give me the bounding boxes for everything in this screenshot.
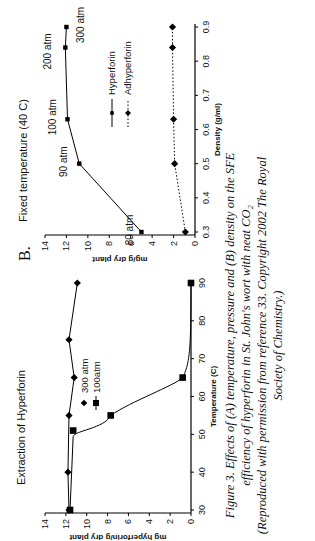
diamond-marker <box>74 279 81 286</box>
panel-b-label: B. <box>16 246 33 261</box>
x-tick-label: 0.3 <box>201 226 211 239</box>
legend: 300 atm100atm <box>79 359 102 410</box>
series-line <box>173 27 186 232</box>
y-axis-label: mg hyperforin/g dry plant <box>69 533 166 541</box>
square-marker <box>70 427 77 434</box>
legend-square-icon <box>93 400 99 406</box>
x-tick-label: 90 <box>197 278 207 288</box>
legend: HyperforinAdhyperforin <box>106 41 133 127</box>
x-axis-label: Temperature (C) <box>209 366 218 428</box>
series-300-atm <box>64 279 81 513</box>
y-tick-label: 14 <box>40 519 50 529</box>
x-tick-label: 0.8 <box>201 55 211 68</box>
y-tick-label: 2 <box>169 241 179 246</box>
x-axis-label: Density (g/ml) <box>213 103 222 156</box>
series-100atm <box>67 280 195 514</box>
diamond-marker <box>65 336 72 343</box>
square-marker <box>63 45 67 49</box>
caption-line-1: Figure 3. Effects of (A) temperature, pr… <box>222 0 238 541</box>
x-tick-label: 0.7 <box>201 89 211 102</box>
caption-line-4: Society of Chemistry.) <box>270 0 286 541</box>
x-tick-label: 80 <box>197 316 207 326</box>
square-marker <box>107 412 114 419</box>
legend-diamond-icon <box>81 400 88 407</box>
x-tick-label: 60 <box>197 391 207 401</box>
chart-title: Fixed temperature (40 C) <box>17 99 29 222</box>
legend-label: 300 atm <box>79 359 90 393</box>
legend-square-icon <box>110 111 114 115</box>
legend-diamond-icon <box>125 110 131 116</box>
series-line <box>70 283 191 510</box>
square-marker <box>179 374 186 381</box>
figure-caption: Figure 3. Effects of (A) temperature, pr… <box>222 0 286 541</box>
y-tick-label: 6 <box>123 519 133 524</box>
series-line <box>68 283 77 510</box>
y-tick-label: 0 <box>190 241 200 246</box>
y-tick-label: 4 <box>144 519 154 524</box>
diamond-marker <box>64 469 71 476</box>
x-tick-label: 0.5 <box>201 157 211 170</box>
x-tick-label: 0.9 <box>201 21 211 34</box>
square-marker <box>77 161 81 165</box>
y-tick-label: 8 <box>104 241 114 246</box>
x-tick-label: 50 <box>197 429 207 439</box>
chart-title: Extraction of Hyperforin <box>15 370 27 485</box>
point-label: 100 atm <box>47 99 58 135</box>
square-marker <box>65 117 69 121</box>
y-tick-label: 10 <box>83 241 93 251</box>
y-tick-label: 12 <box>61 241 71 251</box>
x-tick-label: 0.4 <box>201 192 211 205</box>
x-tick-label: 30 <box>197 505 207 515</box>
y-tick-label: 8 <box>103 519 113 524</box>
legend-label: Hyperforin <box>106 51 117 95</box>
chart-panel-a: 3040506070809002468101214Temperature (C)… <box>15 278 218 541</box>
caption-line-2: efficiency of hyperforin in St. John's w… <box>238 0 254 541</box>
x-tick-label: 40 <box>197 467 207 477</box>
y-tick-label: 10 <box>82 519 92 529</box>
figure-canvas: 3040506070809002468101214Temperature (C)… <box>0 0 315 541</box>
y-tick-label: 4 <box>147 241 157 246</box>
diamond-marker <box>169 23 176 30</box>
y-tick-label: 0 <box>186 519 196 524</box>
point-label: 200 atm <box>42 33 53 69</box>
point-label: 80 atm <box>124 215 135 246</box>
chart-panel-b: 0.30.40.50.60.70.80.902468101214Density … <box>17 7 222 264</box>
legend-label: 100atm <box>91 361 102 393</box>
y-tick-label: 2 <box>165 519 175 524</box>
diamond-marker <box>170 116 177 123</box>
point-label: 300 atm <box>75 7 86 43</box>
y-axis-label: mg/g dry plant <box>92 255 147 264</box>
diamond-marker <box>65 412 72 419</box>
legend-label: Adhyperforin <box>122 41 133 95</box>
y-tick-label: 12 <box>61 519 71 529</box>
diamond-marker <box>169 44 176 51</box>
square-marker <box>64 25 68 29</box>
y-tick-label: 14 <box>40 241 50 251</box>
point-label: 90 atm <box>58 146 69 177</box>
square-marker <box>188 280 195 287</box>
square-marker <box>67 507 74 514</box>
square-marker <box>139 230 143 234</box>
caption-line-3: (Reproduced with permission from referen… <box>254 0 270 541</box>
diamond-marker <box>71 374 78 381</box>
x-tick-label: 0.6 <box>201 123 211 136</box>
x-tick-label: 70 <box>197 354 207 364</box>
series-adhyperforin <box>169 23 189 235</box>
diamond-marker <box>171 160 178 167</box>
